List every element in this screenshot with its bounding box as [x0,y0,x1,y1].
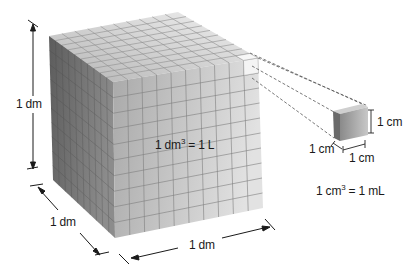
small-cube [333,104,368,141]
volume-base: 1 dm [155,138,181,152]
small-cube-left-face [333,111,340,141]
large-cube [49,12,263,238]
small-cube-height-label: 1 cm [377,115,402,129]
small-cube-depth-label: 1 cm [309,142,334,156]
highlighted-unit-cube [244,58,259,75]
volume-rest: = 1 L [185,138,214,152]
small-cube-equation: 1 cm3 = 1 mL [316,184,384,198]
large-cube-width-label: 1 dm [189,238,215,252]
large-cube-depth-label: 1 dm [50,215,76,229]
large-cube-height-label: 1 dm [16,97,42,111]
large-cube-volume-label: 1 dm3 = 1 L [155,138,214,152]
small-cube-width-label: 1 cm [349,151,374,165]
volume-diagram: 1 dm 1 dm 1 dm 1 dm3 = 1 L 1 cm 1 cm 1 c… [0,0,420,277]
equation-base: 1 cm [316,184,341,198]
equation-rest: = 1 mL [345,184,384,198]
